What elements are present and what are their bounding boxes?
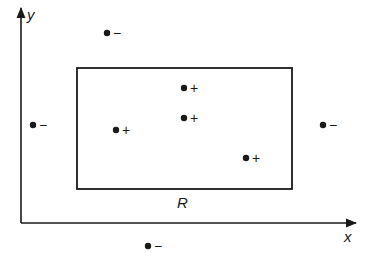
plus-sign-label: + (252, 150, 260, 166)
point-dot (181, 85, 187, 91)
point-dot (104, 30, 110, 36)
positive-point: + (243, 150, 260, 166)
plus-sign-label: + (190, 80, 198, 96)
negative-point: − (104, 25, 121, 41)
point-dot (181, 115, 187, 121)
negative-point: − (320, 117, 337, 133)
plus-sign-label: + (190, 110, 198, 126)
region-label: R (177, 194, 188, 211)
plus-sign-label: + (122, 122, 130, 138)
y-axis-label: y (26, 6, 36, 23)
negative-point: − (145, 238, 162, 254)
positive-point: + (181, 80, 198, 96)
x-axis-label: x (343, 228, 352, 245)
minus-sign-label: − (154, 238, 162, 254)
negative-point: − (30, 117, 47, 133)
data-points: −−−−++++ (30, 25, 337, 254)
minus-sign-label: − (39, 117, 47, 133)
positive-point: + (181, 110, 198, 126)
point-dot (320, 122, 326, 128)
axes: x y (21, 6, 356, 245)
positive-point: + (113, 122, 130, 138)
minus-sign-label: − (329, 117, 337, 133)
point-dot (145, 243, 151, 249)
diagram-canvas: x y R −−−−++++ (0, 0, 372, 261)
point-dot (243, 155, 249, 161)
point-dot (30, 122, 36, 128)
point-dot (113, 127, 119, 133)
minus-sign-label: − (113, 25, 121, 41)
